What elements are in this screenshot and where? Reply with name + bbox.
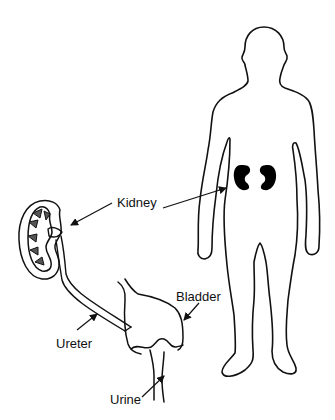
ureter-label: Ureter (56, 337, 92, 350)
kidney-arrow-left (71, 203, 112, 225)
bladder-arrow (184, 303, 199, 320)
bladder-label: Bladder (176, 290, 221, 303)
bladder (118, 279, 183, 402)
human-body-outline (198, 27, 320, 376)
urine-arrow (142, 376, 164, 397)
kidney-arrow-right (163, 188, 226, 208)
left-body-kidney-icon (234, 165, 250, 190)
ureter-arrow (77, 314, 97, 330)
kidney-label: Kidney (117, 196, 157, 209)
urine-label: Urine (110, 393, 141, 406)
right-body-kidney-icon (260, 165, 276, 190)
kidneys-in-body (234, 165, 276, 190)
urinary-system-diagram: Kidney Bladder Ureter Urine (0, 0, 335, 420)
